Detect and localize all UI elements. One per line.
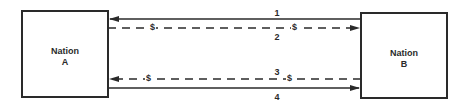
nation-a-box: Nation A (21, 10, 109, 98)
nation-b-label-line2: B (362, 59, 446, 70)
nation-b-box: Nation B (360, 12, 448, 99)
flow-1-label: 1 (272, 8, 282, 18)
flow-3-label: 3 (272, 67, 282, 77)
flow-2-dollar-icon-left: $ (149, 22, 156, 32)
flow-4-label: 4 (272, 92, 282, 102)
nation-a-label-line2: A (23, 57, 107, 68)
flow-2-dollar-icon-right: $ (291, 22, 298, 32)
flow-2-label: 2 (272, 32, 282, 42)
flow-3-dollar-icon-right: $ (286, 73, 293, 83)
nation-b-label-line1: Nation (362, 48, 446, 59)
flow-3-dollar-icon-left: $ (145, 73, 152, 83)
nation-a-label-line1: Nation (23, 46, 107, 57)
trade-flow-diagram: Nation A Nation B 1 2 3 4 $ $ $ $ (0, 0, 467, 111)
